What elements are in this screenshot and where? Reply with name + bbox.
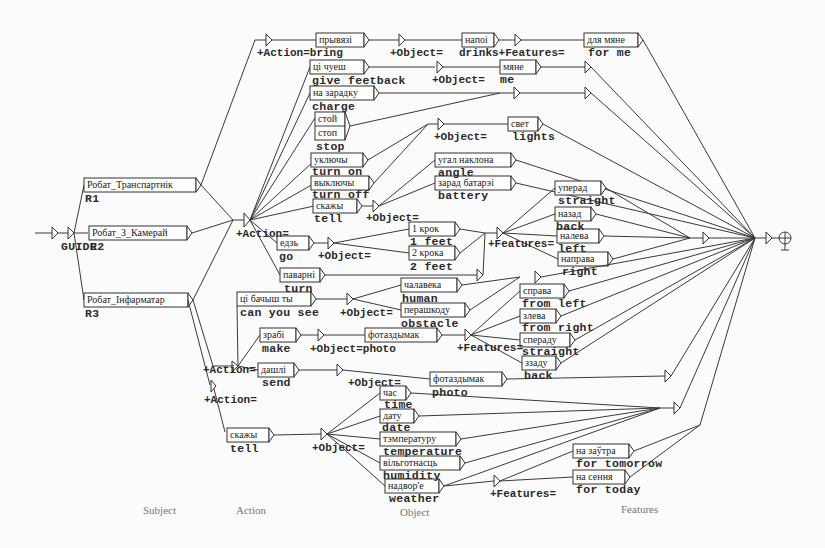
r3-send-photo-output: photo [432, 387, 468, 399]
r2-action-output: give feetback [312, 75, 406, 87]
r2-action-output: stop [316, 141, 345, 153]
r3-tell-output: tell [230, 443, 259, 455]
tag-object: +Object= [434, 131, 487, 143]
r1-forme-output: for me [588, 47, 631, 59]
r3-feature-input: ззаду [523, 357, 548, 369]
r2-object-input: мяне [501, 61, 524, 73]
r2-action-input: ці чуеш [311, 61, 346, 73]
tag-object: +Object= [390, 47, 443, 59]
subject-r2-output: R2 [90, 241, 104, 253]
r2-object-output: lights [512, 131, 555, 143]
r3-feature-output: from left [522, 298, 587, 310]
r3-send-photo-input: фотаздымак [431, 373, 484, 385]
column-label-object: Object [400, 506, 429, 518]
r2-feature-input: налева [558, 230, 588, 242]
r3-tell-object-input: тэмпературу [381, 433, 436, 445]
r2-action-input: паварні [281, 269, 315, 281]
r2-action-input: на зарадку [311, 87, 358, 99]
r3-feature-output: from right [522, 322, 594, 334]
node-triangle-icon [52, 227, 58, 239]
column-label-features: Features [621, 503, 658, 515]
tag-action: +Action= [204, 394, 257, 406]
r3-see-output: can you see [240, 307, 319, 319]
r2-object-input: 2 крока [410, 247, 444, 259]
r1-bring-input: прывязі [317, 34, 352, 46]
tag-action-bring: +Action=bring [257, 47, 343, 59]
tag-object: +Object= [312, 442, 365, 454]
r3-tell-object-output: weather [389, 493, 439, 505]
grammar-graph-canvas: Робат_Транспартнік R1 Робат_З_Камерай GU… [0, 0, 825, 548]
r2-object-input: 1 крок [410, 223, 439, 235]
tag-features: +Features= [457, 342, 523, 354]
r3-make-input: зрабі [261, 329, 284, 341]
subject-r1-input: Робат_Транспартнік [85, 179, 173, 191]
r3-make-photo-input: фотаздымак [366, 329, 419, 341]
r1-drinks-input: напоі [463, 34, 488, 46]
tag-object: +Object= [318, 250, 371, 262]
r3-tell-feature-output: for today [576, 484, 641, 496]
r3-send-output: send [262, 377, 291, 389]
r3-tell-feature-output: for tomorrow [576, 458, 662, 470]
subject-r2-input: Робат_З_Камерай [90, 227, 168, 239]
tag-features: +Features= [488, 238, 554, 250]
r2-feature-input: назад [556, 208, 581, 220]
column-label-subject: Subject [143, 504, 176, 516]
tag-action: +Action= [203, 364, 256, 376]
r2-feature-output: straight [558, 195, 616, 207]
r3-tell-feature-input: на сення [574, 471, 613, 483]
r2-feature-input: направа [559, 253, 594, 265]
r2-feature-output: right [562, 266, 598, 278]
tag-object: +Object= [432, 74, 485, 86]
r3-feature-input: справа [521, 285, 551, 297]
r2-action-input: скажы [314, 200, 343, 212]
tag-object: +Object= [340, 307, 393, 319]
tag-features: +Features= [490, 488, 556, 500]
r3-see-object-input: перашкоду [402, 304, 450, 316]
r2-action-input: стой [316, 113, 337, 125]
r2-object-input: зарад батарэі [436, 177, 494, 189]
subject-r1-output: R1 [85, 193, 99, 205]
r3-send-input: дашлі [259, 364, 286, 376]
r3-make-output: make [262, 343, 291, 355]
r2-object-output: me [500, 74, 514, 86]
subject-r3-input: Робат_Інфарматар [85, 294, 165, 306]
tag-drinks-features: drinks+Features= [459, 47, 565, 59]
r3-tell-object-input: надвор'е [386, 480, 424, 492]
column-label-action: Action [236, 504, 266, 516]
r3-see-input: ці бачыш ты [238, 293, 293, 305]
r2-object-input: угал наклона [436, 154, 494, 166]
r2-object-input: свет [509, 118, 529, 130]
r3-tell-object-input: вільготнасць [381, 457, 437, 469]
tag-object-photo: +Object=photo [310, 343, 396, 355]
r2-object-output: 2 feet [410, 261, 453, 273]
r2-action-output: charge [312, 101, 355, 113]
node-triangle-icon [68, 227, 74, 239]
r2-action-output: go [279, 251, 293, 263]
subject-r3-output: R3 [85, 308, 99, 320]
r2-object-output: battery [438, 190, 488, 202]
r2-action-input: стоп [316, 127, 337, 139]
r2-feature-input: уперад [556, 182, 587, 194]
r3-tell-feature-input: на заўтра [574, 445, 616, 457]
r3-tell-input: скажы [228, 429, 257, 441]
r3-feature-output: back [524, 370, 553, 382]
r2-action-input: едзь [278, 237, 298, 249]
r3-see-object-input: чалавека [402, 279, 441, 291]
r2-action-output: tell [314, 213, 343, 225]
r1-forme-input: для мяне [585, 34, 625, 46]
